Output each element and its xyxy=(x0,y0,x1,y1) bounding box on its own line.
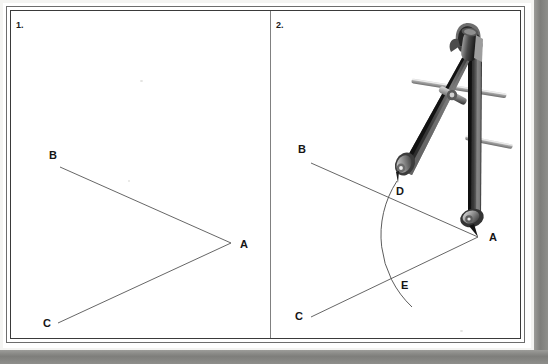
ray-AB-panel-2 xyxy=(311,163,478,237)
panel-2-point-label-b: B xyxy=(298,144,306,155)
needle-leg xyxy=(468,50,482,222)
scan-speck xyxy=(460,330,463,332)
panel-2-point-label-a: A xyxy=(489,232,497,243)
panel-2-figure xyxy=(0,0,548,364)
panel-2-rays xyxy=(311,163,478,317)
panel-2-point-label-d: D xyxy=(396,186,404,197)
scan-speck xyxy=(140,80,143,82)
needle-clamp xyxy=(458,206,486,237)
hinge-knob xyxy=(450,23,483,62)
drawing-compass xyxy=(391,23,513,237)
scan-shadow-bottom xyxy=(0,350,548,364)
scan-speck xyxy=(128,180,130,182)
panel-2-point-label-e: E xyxy=(401,280,408,291)
panel-2-point-label-c: C xyxy=(295,311,303,322)
scanned-page: 1. A B C 2. xyxy=(0,0,548,364)
ray-AC-panel-2 xyxy=(311,237,478,317)
scan-shadow-right xyxy=(534,0,548,364)
